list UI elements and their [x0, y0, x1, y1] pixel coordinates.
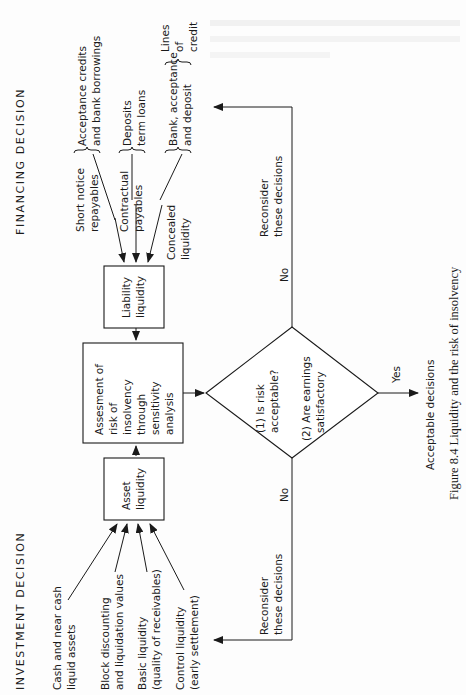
asset-liquidity-label: Asset [120, 481, 132, 510]
liability-liquidity-label: Liability [120, 277, 132, 318]
control-label: Control liquidity [174, 607, 186, 690]
acceptance-brace [74, 147, 100, 153]
q2-label: (2) Are earnings [300, 356, 312, 441]
short-notice-label: Short notice [74, 168, 86, 232]
svg-text:insolvency: insolvency [121, 379, 133, 435]
svg-text:through: through [135, 394, 147, 435]
acceptance-label: Acceptance credits [76, 46, 88, 146]
contractual-label: Contractual [118, 171, 130, 232]
svg-text:risk of: risk of [107, 402, 119, 435]
credit-label: credit [187, 22, 199, 52]
basic-label: Basic liquidity [136, 617, 148, 690]
yes-label: Yes [390, 366, 402, 384]
lines-label: Lines [159, 25, 171, 52]
reconsider-top-label: Reconsider [258, 178, 270, 237]
financing-decision-header: FINANCING DECISION [14, 88, 27, 235]
figure-caption: Figure 8.4 Liquidity and the risk of ins… [447, 266, 461, 500]
no-bottom-label: No [278, 488, 290, 502]
of-label: of [173, 42, 185, 52]
control-label-2: (early settlement) [188, 595, 200, 690]
liability-liquidity-label-2: liquidity [134, 276, 146, 318]
concealed-label: Concealed [165, 205, 177, 260]
short-notice-label-2: repayables [88, 174, 100, 232]
deposits-label: Deposits [121, 100, 133, 146]
q2-label-2: satisfactory [314, 372, 326, 433]
no-top-label: No [278, 268, 290, 282]
block-label-2: and liquidation values [113, 574, 125, 690]
bank-acceptance-label-2: and deposit [181, 84, 193, 146]
asset-liquidity-label-2: liquidity [134, 468, 146, 510]
basic-label-2: (quality of receivables) [150, 569, 162, 690]
acceptance-label-2: and bank borrowings [90, 36, 102, 146]
deposits-brace [119, 147, 145, 153]
investment-decision-header: INVESTMENT DECISION [14, 532, 27, 690]
liquidity-insolvency-diagram: FINANCING DECISION INVESTMENT DECISION S… [0, 0, 466, 695]
bank-acceptance-brace [165, 147, 191, 153]
financing-sources: Short notice repayables Contractual paya… [74, 22, 199, 262]
concealed-label-2: liquidity [179, 218, 191, 260]
cash-label: Cash and near cash [51, 586, 63, 690]
svg-text:Assesment of: Assesment of [93, 364, 105, 435]
investment-sources: Cash and near cash liquid assets Block d… [51, 524, 200, 690]
bank-acceptance-label: Bank, acceptance [167, 52, 179, 146]
q1-label-2: acceptable? [268, 370, 280, 433]
book-page: FINANCING DECISION INVESTMENT DECISION S… [0, 0, 466, 695]
bleed-through-text [210, 20, 460, 58]
reconsider-bottom-label-2: these decisions [272, 554, 284, 635]
block-label: Block discounting [99, 597, 111, 690]
q1-label: (1) Is risk [254, 383, 266, 433]
reconsider-bottom-label: Reconsider [258, 576, 270, 635]
cash-label-2: liquid assets [65, 625, 77, 691]
acceptable-decisions-label: Acceptable decisions [424, 360, 436, 470]
contractual-label-2: payables [132, 185, 144, 232]
decision-diamond [206, 327, 378, 458]
svg-text:sensitivity: sensitivity [149, 382, 161, 435]
svg-text:analysis: analysis [163, 392, 175, 435]
reconsider-top-label-2: these decisions [272, 156, 284, 237]
deposits-label-2: term loans [135, 90, 147, 146]
